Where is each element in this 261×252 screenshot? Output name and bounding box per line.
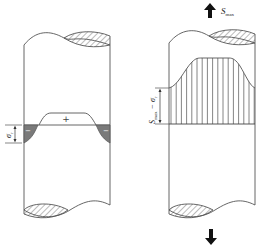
load-label: Smax bbox=[221, 6, 235, 17]
left-negative-sign-left: − bbox=[25, 127, 31, 135]
left-dim-arrow-down-icon bbox=[14, 139, 17, 143]
left-cylinder: + − − σr bbox=[4, 32, 110, 218]
right-dim-arrow-up-icon bbox=[159, 89, 162, 93]
load-arrow-up-icon bbox=[204, 3, 216, 18]
left-negative-sign-right: − bbox=[103, 127, 109, 135]
left-dim-label: σr bbox=[4, 132, 14, 138]
right-dim-arrow-down-icon bbox=[159, 120, 162, 124]
left-dim-arrow-up-icon bbox=[14, 126, 17, 130]
load-arrow-down-icon bbox=[205, 229, 217, 245]
right-dim-label: Smax − σr bbox=[148, 96, 158, 124]
right-cylinder: Smax − σr Smax bbox=[148, 3, 255, 245]
stress-diagram: + − − σr Smax − σr bbox=[0, 0, 261, 252]
left-positive-sign: + bbox=[62, 114, 70, 124]
